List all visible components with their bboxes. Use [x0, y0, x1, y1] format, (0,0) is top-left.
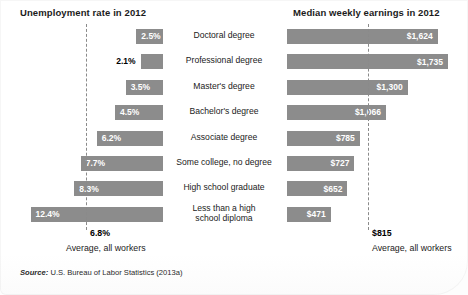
unemployment-value-label: 7.7% [86, 159, 105, 168]
unemployment-bar-track: 3.5% [0, 79, 163, 96]
source-label: Source: [20, 268, 48, 277]
source-text: U.S. Bureau of Labor Statistics (2013a) [48, 268, 182, 277]
right-panel-title: Median weekly earnings in 2012 [293, 7, 440, 18]
earnings-value-label: $785 [336, 134, 355, 143]
unemployment-bar[interactable]: 7.7% [81, 156, 163, 171]
earnings-value-label: $471 [307, 210, 326, 219]
earnings-bar-track: $652 [287, 180, 468, 197]
unemployment-bar-track: 7.7% [0, 155, 163, 172]
right-average-caption: Average, all workers [372, 243, 452, 253]
source-note: Source: U.S. Bureau of Labor Statistics … [20, 268, 183, 277]
unemployment-bar-track: 2.5% [0, 28, 163, 45]
earnings-bar-track: $1,624 [287, 28, 468, 45]
chart-row: 7.7%Some college, no degree$727 [0, 155, 468, 172]
earnings-bar[interactable]: $1,300 [287, 80, 408, 95]
left-panel-title: Unemployment rate in 2012 [20, 7, 146, 18]
earnings-value-label: $1,300 [377, 83, 403, 92]
unemployment-bar[interactable]: 2.1% [141, 54, 163, 69]
earnings-bar-track: $785 [287, 130, 468, 147]
unemployment-value-label: 12.4% [36, 210, 60, 219]
category-label: Less than a highschool diploma [168, 203, 280, 224]
earnings-value-label: $1,735 [417, 58, 443, 67]
earnings-bar-track: $1,735 [287, 53, 468, 70]
chart-row: 2.1%Professional degree$1,735 [0, 53, 468, 70]
earnings-bar[interactable]: $727 [287, 156, 354, 171]
chart-row: 8.3%High school graduate$652 [0, 180, 468, 197]
unemployment-value-label: 2.5% [141, 32, 160, 41]
earnings-value-label: $652 [324, 185, 343, 194]
category-label: High school graduate [168, 182, 280, 193]
chart-row: 4.5%Bachelor's degree$1,066 [0, 104, 468, 121]
category-label: Some college, no degree [168, 157, 280, 168]
category-label: Associate degree [168, 132, 280, 143]
unemployment-bar-track: 12.4% [0, 206, 163, 223]
category-label: Bachelor's degree [168, 106, 280, 117]
unemployment-value-label: 4.5% [120, 108, 139, 117]
chart-row: 6.2%Associate degree$785 [0, 130, 468, 147]
unemployment-bar[interactable]: 8.3% [74, 181, 163, 196]
earnings-value-label: $1,624 [407, 32, 433, 41]
unemployment-bar-track: 2.1% [0, 53, 163, 70]
chart-row: 3.5%Master's degree$1,300 [0, 79, 468, 96]
unemployment-bar-track: 4.5% [0, 104, 163, 121]
category-label: Master's degree [168, 81, 280, 92]
earnings-bar-track: $471 [287, 206, 468, 223]
earnings-bar[interactable]: $1,624 [287, 29, 438, 44]
earnings-bar-track: $1,300 [287, 79, 468, 96]
earnings-bar[interactable]: $1,066 [287, 105, 386, 120]
unemployment-value-label: 3.5% [131, 83, 150, 92]
earnings-bar[interactable]: $652 [287, 181, 347, 196]
earnings-bar[interactable]: $471 [287, 207, 331, 222]
unemployment-bar[interactable]: 3.5% [126, 80, 163, 95]
unemployment-value-label: 8.3% [79, 185, 98, 194]
chart-row: 12.4%Less than a highschool diploma$471 [0, 206, 468, 223]
earnings-bar-track: $1,066 [287, 104, 468, 121]
unemployment-bar[interactable]: 2.5% [136, 29, 163, 44]
unemployment-value-label: 2.1% [116, 56, 135, 66]
left-average-line [86, 24, 87, 230]
unemployment-bar[interactable]: 4.5% [115, 105, 163, 120]
category-label: Professional degree [168, 55, 280, 66]
right-average-line [368, 24, 369, 230]
earnings-bar[interactable]: $785 [287, 131, 360, 146]
earnings-bar-track: $727 [287, 155, 468, 172]
unemployment-value-label: 6.2% [102, 134, 121, 143]
unemployment-bar-track: 8.3% [0, 180, 163, 197]
unemployment-bar-track: 6.2% [0, 130, 163, 147]
unemployment-bar[interactable]: 12.4% [31, 207, 163, 222]
figure-container: Unemployment rate in 2012 Median weekly … [0, 0, 468, 295]
earnings-value-label: $727 [331, 159, 350, 168]
unemployment-bar[interactable]: 6.2% [97, 131, 163, 146]
left-average-caption: Average, all workers [66, 243, 146, 253]
left-average-value: 6.8% [90, 228, 110, 238]
right-average-value: $815 [372, 228, 392, 238]
category-label: Doctoral degree [168, 30, 280, 41]
chart-row: 2.5%Doctoral degree$1,624 [0, 28, 468, 45]
